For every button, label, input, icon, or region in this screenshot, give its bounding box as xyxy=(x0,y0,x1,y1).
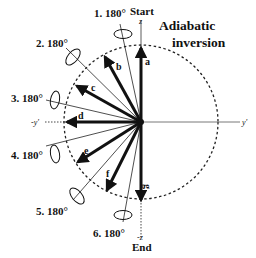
adiabatic-inversion-diagram: a b c d e f g 1. 180° 2. 180° 3. 180° 4.… xyxy=(0,0,256,258)
pulse-axis-4 xyxy=(46,122,141,146)
start-label: Start xyxy=(130,5,154,17)
pulse-axis-3 xyxy=(46,100,141,122)
y-axis-label: y' xyxy=(241,118,248,127)
pulse-label-1: 1. 180° xyxy=(94,7,126,19)
end-label: End xyxy=(132,241,152,253)
vector-label-a: a xyxy=(145,56,150,67)
vector-label-e: e xyxy=(84,145,89,156)
z-axis-label: z xyxy=(138,17,143,26)
rotation-ellipse-6 xyxy=(114,211,132,220)
pulse-label-5: 5. 180° xyxy=(36,205,68,217)
vector-label-b: b xyxy=(116,61,122,72)
minus-y-axis-label: -y' xyxy=(31,118,39,127)
diagram-title-line1: Adiabatic xyxy=(159,18,215,33)
rotation-ellipse-4 xyxy=(49,144,61,163)
rotation-ellipse-3 xyxy=(49,90,61,109)
diagram-title-line2: inversion xyxy=(172,35,226,50)
pulse-label-2: 2. 180° xyxy=(36,37,68,49)
origin-dot xyxy=(138,119,144,125)
vector-label-c: c xyxy=(91,82,96,93)
pulse-label-6: 6. 180° xyxy=(93,227,125,239)
rotation-ellipse-2 xyxy=(63,47,83,68)
vector-label-f: f xyxy=(106,168,110,179)
vector-label-g: g xyxy=(142,184,153,189)
vector-label-d: d xyxy=(78,110,84,121)
pulse-label-3: 3. 180° xyxy=(11,92,43,104)
pulse-label-4: 4. 180° xyxy=(11,149,43,161)
